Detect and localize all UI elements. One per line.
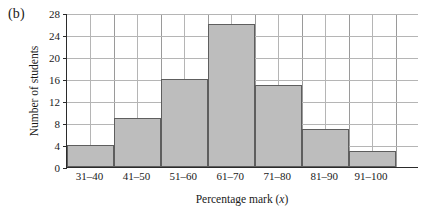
plot-inner [67, 14, 418, 167]
x-axis-tick-label: 91–100 [355, 170, 388, 182]
x-axis-tick-label: 61–70 [217, 170, 245, 182]
y-axis-tick-mark [63, 58, 67, 59]
y-axis-tick-mark [63, 14, 67, 15]
y-axis-tick-label: 20 [49, 52, 60, 64]
y-axis-title: Number of students [28, 46, 40, 137]
y-axis-tick-mark [63, 146, 67, 147]
y-axis-tick-mark [63, 102, 67, 103]
horizontal-gridline [67, 14, 418, 15]
histogram-bar [67, 145, 114, 167]
y-axis-tick-label: 24 [49, 30, 60, 42]
y-axis-tick-mark [63, 168, 67, 169]
y-axis-tick-labels: 0481216202428 [40, 12, 64, 170]
y-axis-tick-label: 4 [55, 140, 61, 152]
y-axis-tick-label: 0 [55, 162, 61, 174]
histogram-bar [349, 151, 396, 168]
x-axis-title: Percentage mark (x) [66, 193, 418, 205]
y-axis-tick-label: 8 [55, 118, 61, 130]
x-axis-tick-label: 41–50 [123, 170, 151, 182]
y-axis-tick-mark [63, 80, 67, 81]
histogram-bar [161, 79, 208, 167]
y-axis-tick-mark [63, 36, 67, 37]
histogram-bar [255, 85, 302, 168]
x-axis-tick-label: 51–60 [170, 170, 198, 182]
y-axis-tick-label: 28 [49, 8, 60, 20]
x-axis-tick-label: 81–90 [310, 170, 338, 182]
x-axis-tick-label: 31–40 [76, 170, 104, 182]
histogram-bar [114, 118, 161, 168]
x-axis-tick-label: 71–80 [263, 170, 291, 182]
panel-label: (b) [8, 6, 25, 22]
x-axis-variable: x [279, 193, 284, 205]
y-axis-tick-label: 16 [49, 74, 60, 86]
histogram-bar [208, 24, 255, 167]
y-axis-tick-label: 12 [49, 96, 60, 108]
histogram-figure: (b) Number of students 0481216202428 31–… [0, 0, 431, 220]
histogram-bar [302, 129, 349, 168]
plot-area [66, 14, 418, 168]
x-axis-tick-labels: 31–4041–5051–6061–7071–8081–9091–100 [66, 170, 418, 186]
y-axis-tick-mark [63, 124, 67, 125]
